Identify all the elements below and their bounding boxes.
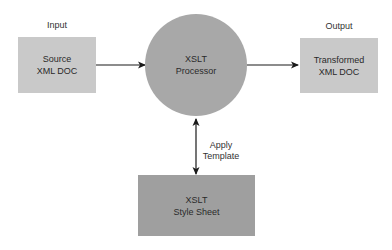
source-label-line2: XML DOC	[37, 65, 78, 77]
source-label-line1: Source	[37, 53, 78, 65]
apply-template-line1: Apply	[200, 140, 242, 151]
xslt-processor-circle: XSLT Processor	[145, 14, 247, 116]
input-caption: Input	[18, 20, 96, 31]
transformed-xml-doc-box: Transformed XML DOC	[300, 38, 378, 93]
processor-label-line2: Processor	[176, 65, 217, 77]
apply-template-line2: Template	[200, 151, 242, 162]
output-label-line2: XML DOC	[314, 66, 365, 78]
xslt-processing-diagram: Input Source XML DOC XSLT Processor Outp…	[0, 0, 392, 250]
output-label-line1: Transformed	[314, 54, 365, 66]
stylesheet-label-line1: XSLT	[173, 194, 219, 206]
apply-template-label: Apply Template	[200, 140, 242, 162]
processor-label-line1: XSLT	[176, 53, 217, 65]
stylesheet-label-line2: Style Sheet	[173, 206, 219, 218]
output-caption: Output	[300, 21, 378, 32]
xslt-style-sheet-box: XSLT Style Sheet	[138, 175, 255, 236]
source-xml-doc-box: Source XML DOC	[18, 37, 96, 93]
